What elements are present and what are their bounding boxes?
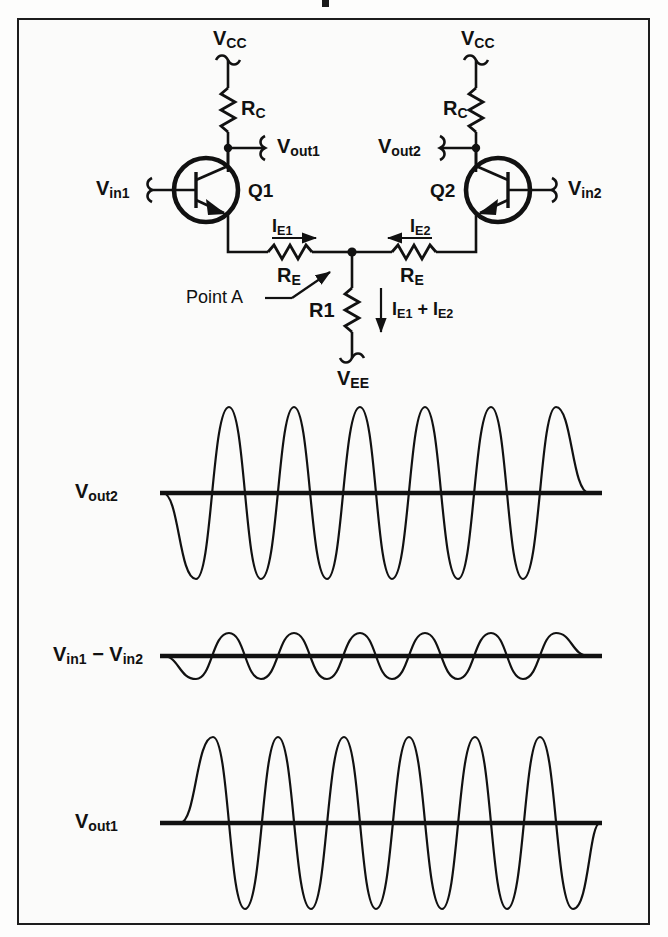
vin1-terminal-icon <box>148 178 153 202</box>
wire-q1-emitter-to-re <box>228 228 268 252</box>
vin1-label: Vin1 <box>96 178 130 200</box>
vin2-terminal-icon <box>552 178 557 202</box>
vee-label: VEE <box>337 368 369 390</box>
re-right-resistor-icon <box>392 245 436 259</box>
r1-resistor-icon <box>345 288 359 332</box>
ie-sum-label: IE1 + IE2 <box>392 300 453 320</box>
rc-left-label: RC <box>241 98 266 120</box>
rc-left-resistor-icon <box>221 88 235 132</box>
vcc-right-label: VCC <box>461 28 495 50</box>
circuit-and-waveform-drawing <box>0 0 668 937</box>
vin-diff-waveform-label: Vin1 − Vin2 <box>53 644 143 666</box>
vout1-label: Vout1 <box>277 136 320 158</box>
wire-q2-emitter-to-re <box>436 228 476 252</box>
vout1-waveform-label: Vout1 <box>75 811 118 833</box>
vout2-label: Vout2 <box>378 136 421 158</box>
vin2-label: Vin2 <box>568 178 602 200</box>
figure-canvas: VCC RC Vout1 Vin1 Q1 IE1 RE VCC RC Vout2… <box>0 0 668 937</box>
rc-right-resistor-icon <box>469 88 483 132</box>
re-right-label: RE <box>400 265 424 287</box>
vout2-waveform-label: Vout2 <box>75 481 118 503</box>
rc-right-label: RC <box>443 98 468 120</box>
vcc-left-label: VCC <box>213 28 247 50</box>
ie2-label: IE2 <box>410 217 430 237</box>
point-a-label: Point A <box>186 288 243 306</box>
q1-transistor-icon <box>152 148 238 228</box>
re-left-resistor-icon <box>268 245 312 259</box>
r1-label: R1 <box>309 300 335 320</box>
re-left-label: RE <box>277 265 301 287</box>
q1-label: Q1 <box>248 181 273 200</box>
q2-label: Q2 <box>430 181 455 200</box>
ie1-label: IE1 <box>272 217 292 237</box>
q2-transistor-icon <box>466 148 552 228</box>
